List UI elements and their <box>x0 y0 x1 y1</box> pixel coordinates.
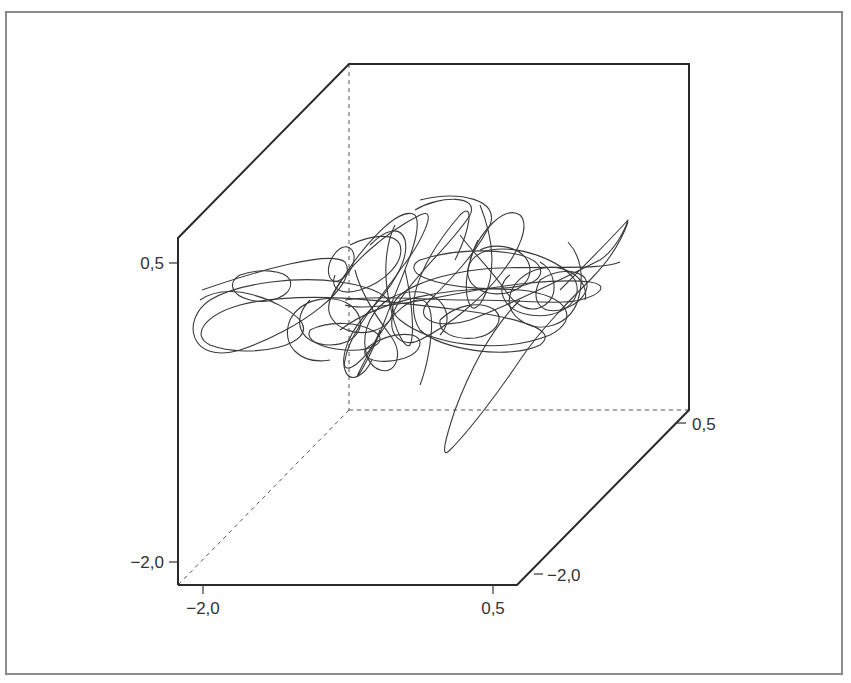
z-axis-max-label: 0,5 <box>692 415 716 434</box>
z-axis-min-label: −2,0 <box>547 566 581 585</box>
tick-marks <box>169 263 686 594</box>
y-axis-max-label: 0,5 <box>140 254 164 273</box>
trajectory-curve <box>193 196 628 452</box>
chart-3d: 0,5 −2,0 −2,0 0,5 0,5 −2,0 <box>0 0 851 683</box>
hidden-edges <box>178 64 689 585</box>
depth-bottom-edge <box>178 410 349 585</box>
y-axis-min-label: −2,0 <box>130 553 164 572</box>
box-outline <box>178 64 689 585</box>
x-axis-min-label: −2,0 <box>186 599 220 618</box>
box-edges <box>178 64 689 585</box>
tick-labels: 0,5 −2,0 −2,0 0,5 0,5 −2,0 <box>130 254 715 618</box>
x-axis-max-label: 0,5 <box>481 599 505 618</box>
